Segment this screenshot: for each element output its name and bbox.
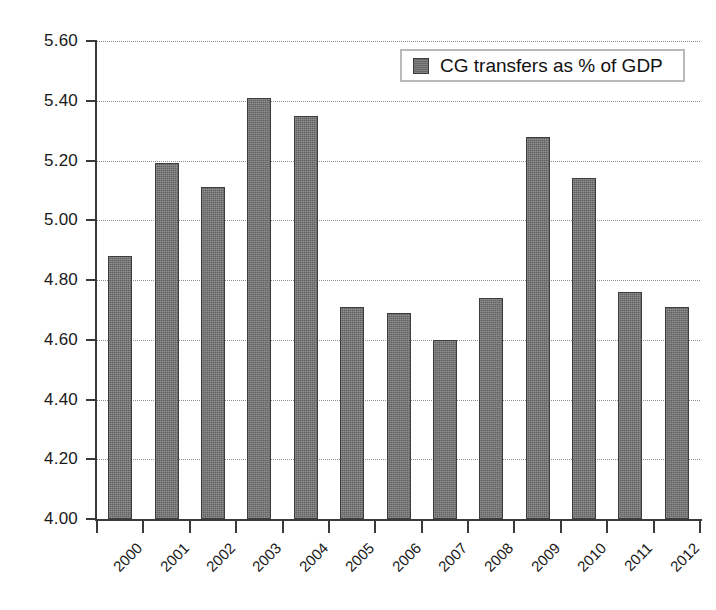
x-axis-tick-labels: 2000200120022003200420052006200720082009… [0, 0, 716, 610]
legend: CG transfers as % of GDP [400, 49, 685, 82]
legend-swatch-cg-transfers [413, 58, 429, 74]
legend-label-cg-transfers: CG transfers as % of GDP [440, 56, 663, 75]
bar-chart: 5.605.405.205.004.804.604.404.204.00 200… [0, 0, 716, 610]
